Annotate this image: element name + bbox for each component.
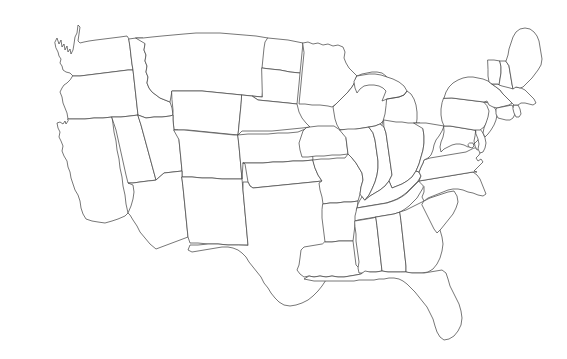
state-north-dakota[interactable] <box>262 38 303 73</box>
state-vermont[interactable] <box>488 60 501 85</box>
state-new-mexico[interactable] <box>182 177 248 245</box>
state-wyoming[interactable] <box>172 91 242 135</box>
state-arkansas[interactable] <box>322 201 358 242</box>
state-pennsylvania[interactable] <box>441 98 490 130</box>
state-district-of-columbia[interactable] <box>468 143 474 148</box>
state-oregon[interactable] <box>60 70 138 119</box>
us-outline-map <box>0 0 567 359</box>
state-colorado[interactable] <box>174 130 242 179</box>
state-connecticut[interactable] <box>496 105 515 120</box>
us-map-svg <box>0 0 567 359</box>
